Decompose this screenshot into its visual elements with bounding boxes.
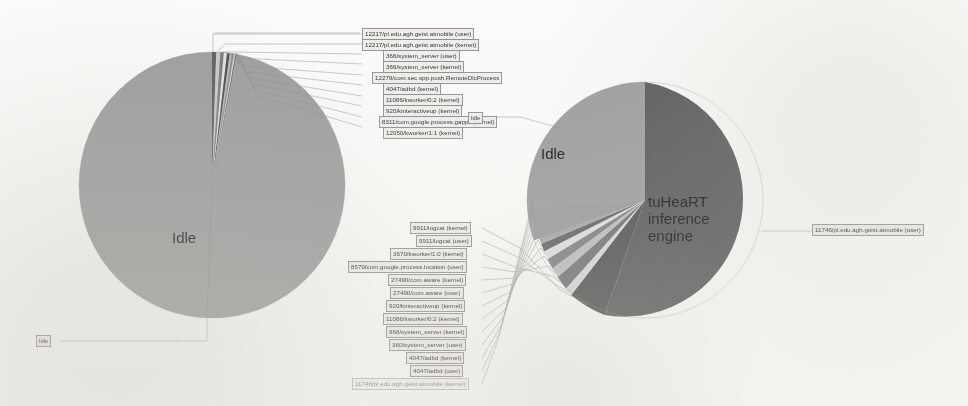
leader-left-3 bbox=[221, 52, 362, 54]
leader-lines-layer bbox=[0, 0, 968, 406]
leader-r-1 bbox=[482, 228, 588, 305]
leader-r-7 bbox=[482, 240, 542, 306]
leader-left-idle bbox=[60, 318, 207, 341]
callout-right-idle[interactable]: Idle bbox=[468, 112, 483, 124]
leader-left-5 bbox=[228, 53, 362, 75]
callout-right-9[interactable]: 968/system_server (kernel) bbox=[386, 326, 467, 338]
leader-r-12 bbox=[482, 206, 534, 371]
callout-right-cut[interactable]: 11746/pl.edu.agh.geist.atmobile (kernel) bbox=[352, 378, 469, 390]
right-pie-idle-label: Idle bbox=[541, 145, 565, 162]
leader-left-8 bbox=[236, 54, 362, 106]
leader-left-10 bbox=[238, 54, 362, 127]
leader-r-9 bbox=[482, 226, 538, 332]
callout-left-10[interactable]: 12050/kworker/1:1 (kernel) bbox=[383, 127, 463, 139]
callout-right-atmobile-user[interactable]: 11746/pl.edu.agh.geist.atmobile (user) bbox=[812, 224, 924, 236]
callout-right-2[interactable]: 9911/logcat (user) bbox=[416, 235, 472, 247]
leader-left-9 bbox=[237, 54, 362, 117]
callout-right-8[interactable]: 11086/kworker/0:2 (kernel) bbox=[383, 313, 463, 325]
callout-right-3[interactable]: 3670/kworker/1:0 (kernel) bbox=[390, 248, 467, 260]
callout-right-12[interactable]: 4047/adbd (user) bbox=[410, 365, 463, 377]
callout-right-10[interactable]: 360/system_server (user) bbox=[389, 339, 466, 351]
callout-right-6[interactable]: 27490/com.aware (user) bbox=[390, 287, 464, 299]
pie-chart-figure: Idle Idle tuHeaRT inference engine 12217… bbox=[0, 0, 968, 406]
callout-right-11[interactable]: 4047/adbd (kernel) bbox=[406, 352, 464, 364]
leader-left-1 bbox=[213, 34, 362, 52]
callout-right-4[interactable]: 8570/com.google.process.location (user) bbox=[348, 261, 467, 273]
leader-r-13 bbox=[482, 200, 534, 384]
right-pie-engine-label: tuHeaRT inference engine bbox=[648, 193, 710, 244]
left-pie-center-label: Idle bbox=[172, 229, 196, 246]
callout-right-1[interactable]: 9911/logcat (kernel) bbox=[410, 222, 471, 234]
callout-left-idle[interactable]: Idle bbox=[36, 335, 51, 347]
callout-right-5[interactable]: 27490/com.aware (kernel) bbox=[388, 274, 466, 286]
leader-r-2 bbox=[482, 241, 569, 292]
leader-r-8 bbox=[482, 233, 540, 319]
leader-right-idle bbox=[492, 117, 560, 128]
leader-left-7 bbox=[234, 53, 362, 96]
leader-r-11 bbox=[482, 213, 535, 358]
leader-r-10 bbox=[482, 219, 536, 345]
leader-left-2 bbox=[217, 44, 362, 52]
callout-right-7[interactable]: 920/kinteractiveup (kernel) bbox=[386, 300, 465, 312]
